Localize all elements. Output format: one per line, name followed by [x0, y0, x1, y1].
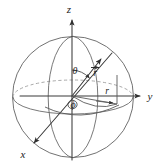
theta-label: θ	[73, 65, 78, 76]
phi-label: ϕ	[70, 99, 75, 110]
r-projection-label: r	[105, 86, 109, 96]
x-axis-label: x	[20, 148, 26, 160]
spherical-coordinates-figure: z y x θ ϕ r r	[0, 0, 162, 168]
diagram-canvas: z y x θ ϕ r r	[0, 0, 162, 168]
y-axis-label: y	[147, 90, 153, 102]
meridian-arc-left	[48, 36, 73, 158]
r-vector-label: r	[93, 68, 97, 78]
z-axis-label: z	[66, 3, 72, 15]
r-projection-arrow	[96, 101, 113, 103]
